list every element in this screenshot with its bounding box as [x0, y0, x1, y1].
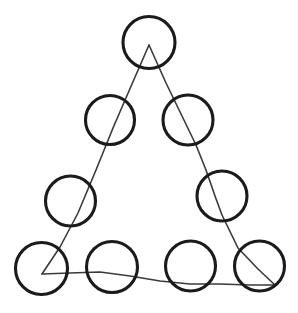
circle-row2-right: [163, 95, 213, 145]
triangle-right-edge: [149, 45, 275, 285]
figure-canvas: [0, 0, 298, 313]
circle-row3-left: [46, 176, 96, 226]
circle-row4-first: [16, 243, 68, 295]
triangle-left-edge: [42, 45, 149, 274]
triangle-circles-drawing: [0, 0, 298, 313]
circle-row4-second: [87, 242, 138, 293]
circle-row4-fourth: [235, 241, 285, 291]
circle-apex: [123, 17, 175, 69]
